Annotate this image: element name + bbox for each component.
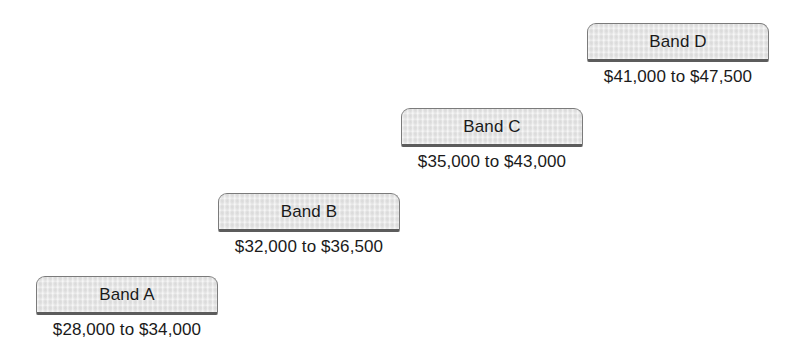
band-box-c[interactable]: Band C (401, 108, 583, 147)
band-range-caption-a: $28,000 to $34,000 (36, 320, 218, 340)
band-label-b: Band B (281, 202, 337, 222)
band-range-caption-d: $41,000 to $47,500 (587, 67, 769, 87)
band-box-a[interactable]: Band A (36, 276, 218, 315)
band-step-b: Band B $32,000 to $36,500 (218, 193, 400, 257)
band-label-c: Band C (463, 117, 520, 137)
band-step-d: Band D $41,000 to $47,500 (587, 23, 769, 87)
band-step-c: Band C $35,000 to $43,000 (401, 108, 583, 172)
band-box-b[interactable]: Band B (218, 193, 400, 232)
salary-band-staircase-diagram: Band A $28,000 to $34,000 Band B $32,000… (0, 0, 798, 360)
band-range-caption-c: $35,000 to $43,000 (401, 152, 583, 172)
band-box-d[interactable]: Band D (587, 23, 769, 62)
band-label-d: Band D (649, 32, 706, 52)
band-label-a: Band A (99, 285, 154, 305)
band-step-a: Band A $28,000 to $34,000 (36, 276, 218, 340)
band-range-caption-b: $32,000 to $36,500 (218, 237, 400, 257)
